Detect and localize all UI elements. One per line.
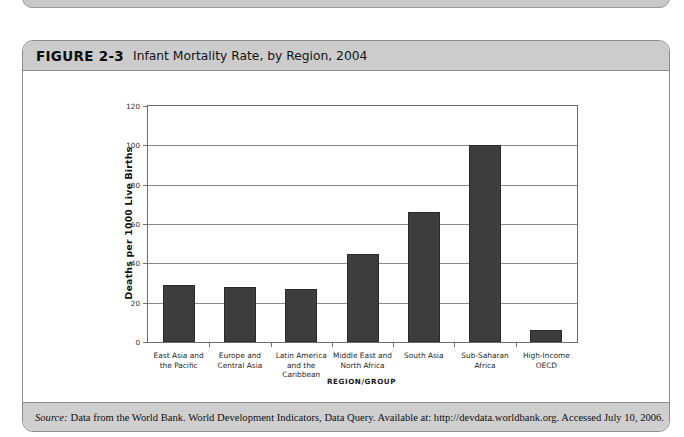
y-axis-tick-label: 20 bbox=[131, 298, 140, 307]
gridline bbox=[148, 185, 577, 186]
y-axis-tick-label: 60 bbox=[131, 220, 140, 229]
x-axis-tick bbox=[271, 342, 272, 347]
bar bbox=[163, 285, 195, 342]
source-citation-text: Data from the World Bank. World Developm… bbox=[71, 412, 664, 423]
x-axis-tick bbox=[393, 342, 394, 347]
figure-number-label: FIGURE 2-3 bbox=[36, 48, 124, 64]
x-axis-title: REGION/GROUP bbox=[147, 377, 576, 386]
bar bbox=[530, 330, 562, 342]
y-axis-tick bbox=[143, 185, 148, 186]
bar bbox=[408, 212, 440, 342]
y-axis-tick bbox=[143, 303, 148, 304]
x-axis-tick bbox=[454, 342, 455, 347]
y-axis-tick-label: 100 bbox=[126, 141, 140, 150]
y-axis-tick-label: 40 bbox=[131, 259, 140, 268]
figure-source-footer: Source: Data from the World Bank. World … bbox=[23, 402, 669, 431]
y-axis-tick bbox=[143, 224, 148, 225]
gridline bbox=[148, 224, 577, 225]
x-axis-tick bbox=[332, 342, 333, 347]
x-axis-tick bbox=[209, 342, 210, 347]
y-axis-tick-label: 80 bbox=[131, 180, 140, 189]
previous-figure-box-edge bbox=[22, 0, 670, 8]
y-axis-tick bbox=[143, 106, 148, 107]
bar bbox=[347, 254, 379, 343]
gridline bbox=[148, 145, 577, 146]
y-axis-tick-label: 120 bbox=[126, 102, 140, 111]
figure-title-text: Infant Mortality Rate, by Region, 2004 bbox=[133, 49, 367, 63]
plot-area: 020406080100120East Asia andthe PacificE… bbox=[147, 105, 578, 343]
y-axis-tick bbox=[143, 263, 148, 264]
x-axis-tick bbox=[516, 342, 517, 347]
y-axis-tick bbox=[143, 145, 148, 146]
y-axis-tick-label: 0 bbox=[135, 338, 140, 347]
source-label: Source: bbox=[35, 412, 68, 423]
figure-box: FIGURE 2-3 Infant Mortality Rate, by Reg… bbox=[22, 40, 670, 432]
figure-caption-header: FIGURE 2-3 Infant Mortality Rate, by Reg… bbox=[23, 41, 669, 71]
y-axis-tick bbox=[143, 342, 148, 343]
bar bbox=[285, 289, 317, 342]
x-axis-category-label: High-IncomeOECD bbox=[509, 351, 583, 370]
bar bbox=[224, 287, 256, 342]
bar bbox=[469, 145, 501, 342]
chart-canvas: Deaths per 1000 Live Births 020406080100… bbox=[23, 71, 669, 403]
